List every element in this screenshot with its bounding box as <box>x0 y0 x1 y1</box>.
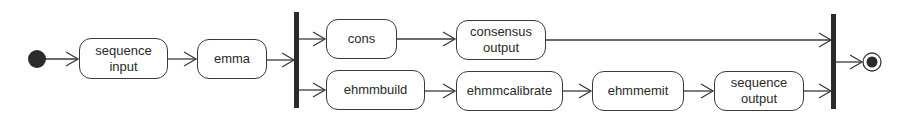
activity-ehmmemit: ehmmemit <box>592 71 684 111</box>
initial-node <box>28 50 46 68</box>
activity-ehmmbuild: ehmmbuild <box>326 70 425 110</box>
activity-ehmmcalibrate: ehmmcalibrate <box>456 71 563 111</box>
final-node-dot <box>867 57 878 68</box>
fork-bar <box>294 12 299 108</box>
join-bar <box>831 14 836 109</box>
activity-sequence-input: sequence input <box>79 38 168 79</box>
activity-emma: emma <box>197 39 267 79</box>
activity-sequence-output: sequence output <box>714 71 804 111</box>
activity-cons: cons <box>326 19 397 59</box>
activity-consensus-output: consensus output <box>456 20 546 60</box>
